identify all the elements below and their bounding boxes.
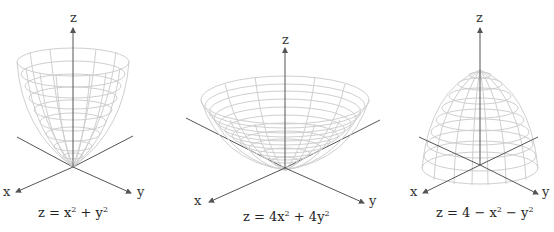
paraboloid-3-wireframe — [370, 0, 554, 232]
x-axis-label: x — [410, 184, 417, 199]
z-axis-label: z — [70, 10, 77, 25]
paraboloid-2-wireframe — [180, 0, 380, 232]
z-axis-label: z — [282, 32, 289, 47]
y-axis-label: y — [542, 184, 549, 199]
equation-label: z = x2 + y2 — [38, 205, 108, 220]
paraboloid-1-wireframe — [0, 0, 180, 232]
z-axis-label: z — [476, 10, 483, 25]
panel-paraboloid-3: z x y z = 4 − x2 − y2 — [370, 0, 554, 232]
y-axis-label: y — [137, 184, 144, 199]
x-axis-label: x — [3, 184, 10, 199]
equation-label: z = 4x2 + 4y2 — [243, 209, 330, 224]
panel-paraboloid-1: z x y z = x2 + y2 — [0, 0, 180, 232]
equation-label: z = 4 − x2 − y2 — [436, 205, 533, 220]
x-axis-label: x — [194, 193, 201, 208]
panel-paraboloid-2: z x y z = 4x2 + 4y2 — [180, 0, 380, 232]
